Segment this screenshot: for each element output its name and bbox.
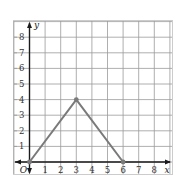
x-tick-label: 5 — [105, 165, 110, 175]
y-tick-label: 8 — [19, 32, 24, 42]
x-tick-label: 4 — [89, 165, 94, 175]
y-tick-label: 5 — [19, 79, 24, 89]
x-tick-label: 8 — [152, 165, 157, 175]
vertex-point — [27, 160, 32, 165]
x-tick-label: 1 — [42, 165, 47, 175]
x-tick-label: 3 — [74, 165, 79, 175]
y-tick-label: 3 — [19, 110, 24, 120]
x-axis-label: x — [164, 165, 169, 175]
y-tick-label: 6 — [19, 63, 24, 73]
coordinate-plane-chart: 1234567812345678Oxy — [0, 0, 179, 187]
vertex-point — [74, 97, 79, 102]
x-tick-label: 7 — [136, 165, 141, 175]
origin-label: O — [20, 165, 28, 175]
y-tick-label: 7 — [19, 48, 24, 58]
y-tick-label: 4 — [19, 95, 24, 105]
y-tick-label: 1 — [19, 141, 24, 151]
vertex-point — [121, 160, 126, 165]
x-tick-label: 6 — [120, 165, 125, 175]
x-tick-label: 2 — [58, 165, 63, 175]
y-axis-label: y — [33, 20, 40, 30]
y-tick-label: 2 — [19, 126, 24, 136]
